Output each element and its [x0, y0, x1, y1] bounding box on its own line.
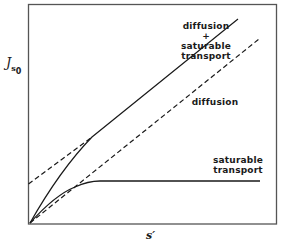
label-line: transport — [208, 165, 268, 175]
label-line: transport — [175, 51, 237, 61]
saturable-transport-curve — [30, 181, 260, 223]
label-line: + — [175, 31, 237, 41]
label-line: saturable — [208, 155, 268, 165]
label-line: diffusion — [175, 21, 237, 31]
label-diffusion: diffusion — [190, 97, 240, 107]
diagram-canvas — [0, 0, 281, 249]
label-line: saturable — [175, 41, 237, 51]
y-axis-label: Js0 — [6, 52, 21, 71]
label-diffusion-plus-saturable: diffusion + saturable transport — [175, 21, 237, 61]
x-axis-label: s′ — [146, 229, 155, 242]
asymptote-dashed-line — [29, 137, 93, 184]
label-line: diffusion — [190, 97, 240, 107]
label-saturable-transport: saturable transport — [208, 155, 268, 175]
diffusion-dashed-line — [30, 39, 259, 223]
